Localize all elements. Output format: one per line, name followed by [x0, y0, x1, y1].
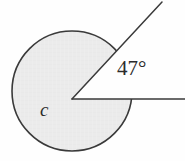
- diagram-canvas: [0, 0, 185, 161]
- circle-shape: [12, 31, 132, 151]
- circle-center-label: c: [40, 100, 48, 119]
- angle-diagram-figure: 47° c: [0, 0, 185, 161]
- circle-disc-group: [12, 31, 132, 151]
- angle-measure-label: 47°: [117, 58, 146, 79]
